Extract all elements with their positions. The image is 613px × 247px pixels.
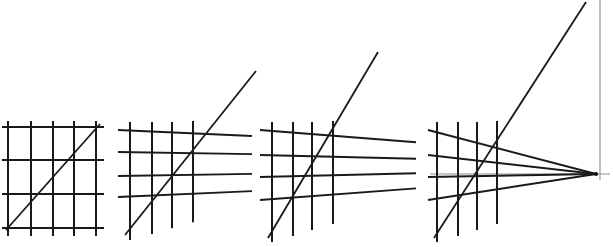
perspective-grid-canvas <box>0 0 613 247</box>
perspective-grid-figure: Four square-grid panels showing progress… <box>0 0 613 247</box>
figure-background <box>0 0 613 247</box>
vanishing-point-marker <box>594 172 598 176</box>
